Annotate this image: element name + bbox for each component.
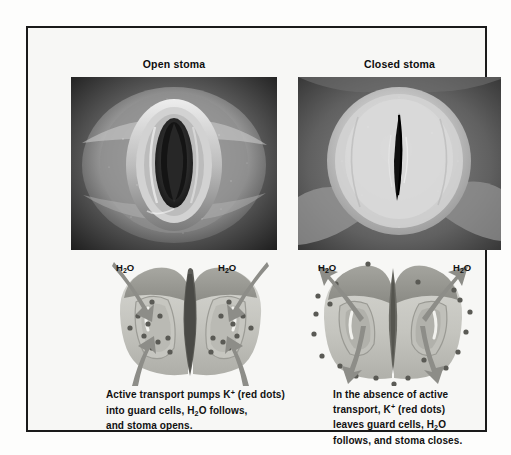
panel-heading-closed-stoma: Closed stoma (298, 58, 501, 70)
caption-closed-line-4: follows, and stoma closes. (333, 434, 511, 449)
caption-closed-line-1: In the absence of active (333, 388, 511, 403)
micrograph-closed-stoma (298, 77, 501, 250)
diagram-closed-stoma (308, 256, 478, 386)
caption-closed-line-3: leaves guard cells, H2O (333, 418, 511, 434)
water-label-open-right: H2O (218, 263, 236, 273)
water-label-closed-left: H2O (318, 263, 336, 273)
caption-closed-line-2: transport, K+ (red dots) (333, 403, 511, 419)
caption-open-line-3: and stoma opens. (106, 419, 306, 434)
caption-closed-stoma: In the absence of active transport, K+ (… (333, 388, 511, 448)
caption-open-line-1: Active transport pumps K+ (red dots) (106, 388, 306, 404)
micrograph-open-stoma (71, 77, 277, 250)
caption-open-line-2: into guard cells, H2O follows, (106, 404, 306, 420)
panel-heading-open-stoma: Open stoma (71, 58, 277, 70)
water-label-closed-right: H2O (453, 263, 471, 273)
water-label-open-left: H2O (116, 263, 134, 273)
caption-open-stoma: Active transport pumps K+ (red dots) int… (106, 388, 306, 434)
stomata-figure: Open stoma Closed stoma (0, 0, 511, 455)
diagram-open-stoma (108, 256, 273, 386)
figure-frame: Open stoma Closed stoma (26, 26, 487, 432)
